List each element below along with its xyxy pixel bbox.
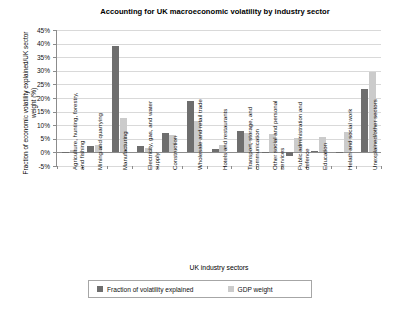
x-axis-tick — [182, 166, 183, 169]
x-axis-tick-label: Other social and personal services — [272, 86, 286, 170]
x-axis-tick — [107, 166, 108, 169]
x-axis-tick — [57, 166, 58, 169]
y-axis-tick-label: 30% — [24, 67, 50, 74]
legend-label-series0: Fraction of volatility explained — [107, 286, 194, 293]
x-axis-tick-label: Manufacturing — [122, 86, 129, 170]
y-axis-tick-label: 15% — [24, 108, 50, 115]
x-axis-tick — [207, 166, 208, 169]
x-axis-tick-label: Agriculture, hunting, forestry, and fish… — [72, 86, 86, 170]
bar-0-12 — [361, 89, 368, 152]
bar-0-11 — [336, 152, 343, 153]
bar-0-1 — [87, 146, 94, 152]
legend-swatch-icon-series0 — [97, 286, 103, 292]
legend-item-fraction: Fraction of volatility explained — [97, 286, 194, 293]
legend-swatch-icon-series1 — [228, 286, 234, 292]
bar-0-4 — [162, 133, 169, 153]
x-axis-tick-label: Transport, storage, and communication — [247, 86, 261, 170]
gridline — [57, 98, 381, 99]
x-axis-tick-label: Electricity, gas, and water supply — [147, 86, 161, 170]
gridline — [57, 84, 381, 85]
y-axis-title-wrap: Fraction of economic volatility explaine… — [5, 28, 25, 178]
y-axis-tick-label: 25% — [24, 81, 50, 88]
y-axis-tick-label: 45% — [24, 27, 50, 34]
x-axis-title: UK industry sectors — [57, 264, 381, 271]
gridline — [57, 44, 381, 45]
x-axis-tick — [231, 166, 232, 169]
gridline — [57, 112, 381, 113]
x-axis-tick-label: Construction — [172, 86, 179, 170]
y-axis-tick-label: 20% — [24, 95, 50, 102]
x-axis-tick-label: Helath and social work — [347, 86, 354, 170]
zero-line — [57, 152, 381, 153]
y-axis-tick-label: 40% — [24, 40, 50, 47]
legend-item-gdp-weight: GDP weight — [228, 286, 273, 293]
gridline — [57, 30, 381, 31]
gridline — [57, 71, 381, 72]
x-axis-tick-label: Public administration and defence — [297, 86, 311, 170]
gridline — [57, 125, 381, 126]
x-axis-tick — [381, 166, 382, 169]
bar-0-8 — [262, 152, 269, 153]
bar-chart: Accounting for UK macroeconomic volatili… — [0, 0, 396, 322]
x-axis-tick-label: Hotels and restaurants — [222, 86, 229, 170]
x-axis-tick-label: Unexplained/other sectors — [372, 86, 379, 170]
x-axis-tick — [331, 166, 332, 169]
x-axis-tick — [356, 166, 357, 169]
bar-0-10 — [311, 151, 318, 153]
x-axis-tick-label: Wholesale and retail trade — [197, 86, 204, 170]
bar-0-2 — [112, 46, 119, 152]
chart-legend: Fraction of volatility explained GDP wei… — [88, 280, 312, 298]
gridline — [57, 57, 381, 58]
y-axis-tick-label: 35% — [24, 54, 50, 61]
bar-0-9 — [286, 152, 293, 156]
y-axis-tick-label: 0% — [24, 149, 50, 156]
y-axis-tick-label: 5% — [24, 135, 50, 142]
y-axis-tick-label: 10% — [24, 122, 50, 129]
bar-0-5 — [187, 101, 194, 152]
gridline — [57, 139, 381, 140]
bar-0-7 — [237, 131, 244, 152]
x-axis-tick-label: Mining and quarrying — [97, 86, 104, 170]
y-axis-tick-label: -5% — [24, 163, 50, 170]
bar-0-6 — [212, 149, 219, 152]
bar-0-3 — [137, 146, 144, 153]
gridline — [57, 166, 381, 167]
x-axis-tick-label: Education — [322, 86, 329, 170]
bar-0-0 — [62, 152, 69, 153]
x-axis-tick — [132, 166, 133, 169]
legend-label-series1: GDP weight — [238, 286, 273, 293]
plot-area — [57, 30, 381, 166]
chart-title: Accounting for UK macroeconomic volatili… — [40, 7, 390, 17]
